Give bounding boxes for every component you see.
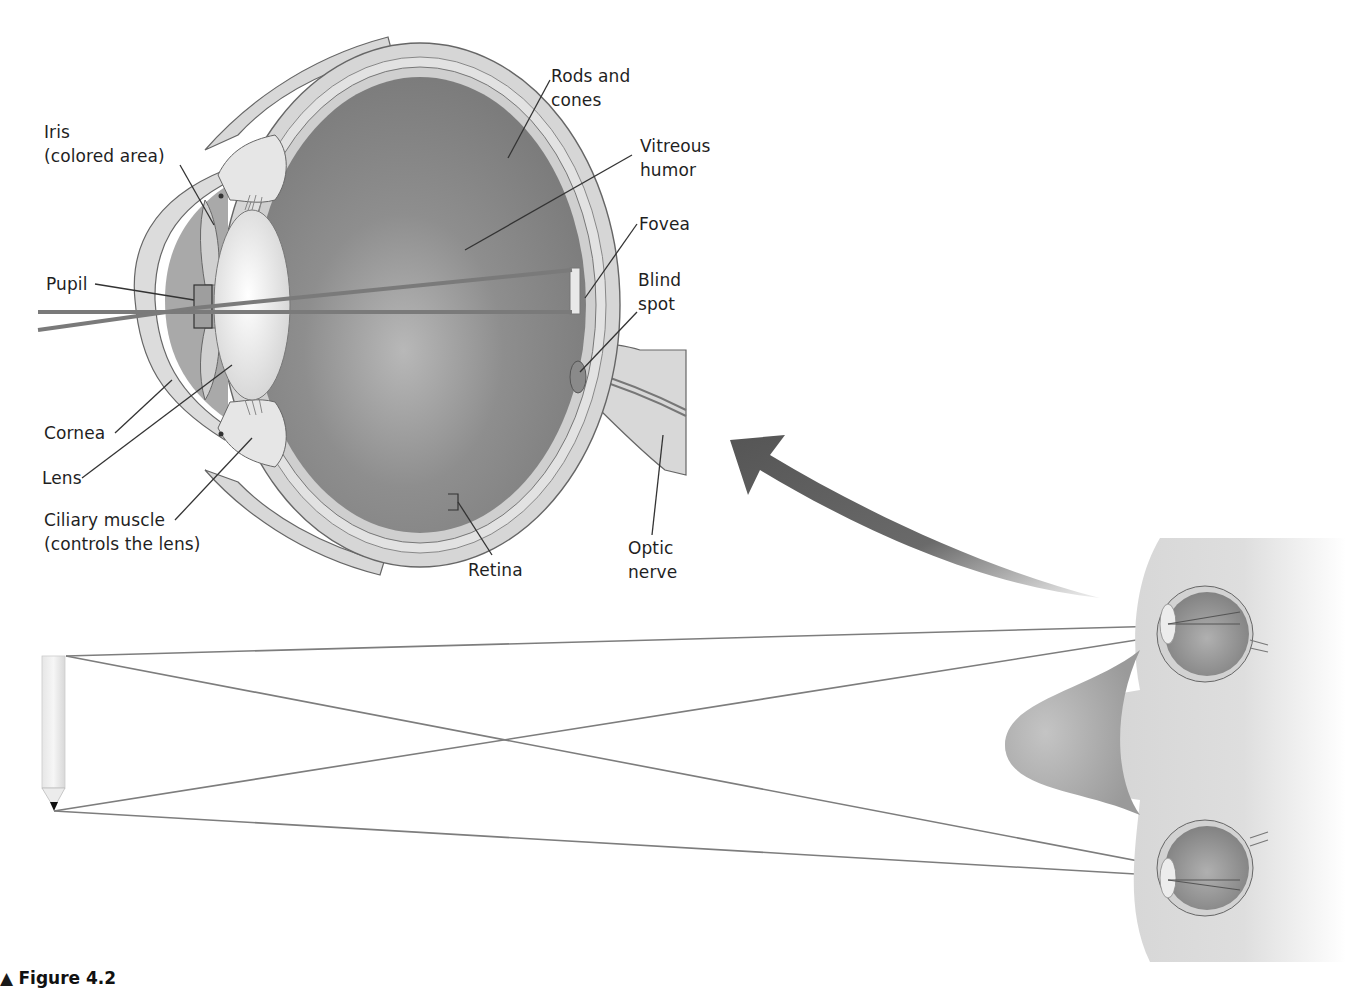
fovea [570, 268, 580, 314]
label-pupil: Pupil [46, 272, 87, 296]
curved-arrow-icon [730, 435, 1100, 598]
caption-figure-number: Figure 4.2 [18, 968, 116, 988]
pencil-icon [42, 656, 65, 811]
eye-cross-section [38, 37, 686, 575]
figure-caption: ▲ Figure 4.2 [0, 968, 116, 988]
vitreous-humor [254, 77, 586, 533]
label-optic-nerve: Optic nerve [628, 536, 677, 584]
label-cornea: Cornea [44, 421, 105, 445]
label-retina: Retina [468, 558, 523, 582]
face-profile [1005, 538, 1346, 962]
label-blind-spot: Blind spot [638, 268, 681, 316]
label-fovea: Fovea [639, 212, 690, 236]
label-iris: Iris (colored area) [44, 120, 165, 168]
label-ciliary-muscle: Ciliary muscle (controls the lens) [44, 508, 200, 556]
label-vitreous-humor: Vitreous humor [640, 134, 711, 182]
label-lens: Lens [42, 466, 82, 490]
nose [1005, 650, 1140, 815]
blind-spot [570, 361, 586, 393]
ciliary-body-upper [218, 135, 286, 202]
label-rods-and-cones: Rods and cones [551, 64, 630, 112]
caption-marker-icon: ▲ [0, 968, 13, 988]
ciliary-body-lower [218, 400, 286, 467]
